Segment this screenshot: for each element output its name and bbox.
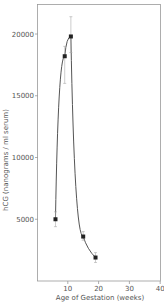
x-tick-label: 40 — [156, 285, 164, 293]
series-line — [55, 36, 95, 257]
x-tick-label: 20 — [94, 285, 103, 293]
data-point-marker — [53, 217, 57, 221]
y-tick-label: 10000 — [12, 154, 34, 162]
x-axis-ticks: 10203040 — [63, 281, 164, 293]
y-axis-title: hCG (nanograms / ml serum) — [2, 109, 10, 211]
data-point-marker — [94, 256, 98, 260]
data-point-marker — [81, 235, 85, 239]
data-point-marker — [63, 54, 67, 58]
plot-frame — [38, 5, 161, 282]
y-axis-ticks: 5000100001500020000 — [12, 31, 38, 224]
x-axis-title: Age of Gestation (weeks) — [56, 294, 145, 302]
y-tick-label: 20000 — [12, 31, 34, 39]
data-point-marker — [69, 34, 73, 38]
x-tick-label: 30 — [125, 285, 134, 293]
hcg-line-chart: 5000100001500020000 10203040 Age of Gest… — [0, 0, 164, 307]
data-series — [53, 17, 97, 263]
x-tick-label: 10 — [63, 285, 72, 293]
y-tick-label: 15000 — [12, 92, 34, 100]
y-tick-label: 5000 — [16, 216, 34, 224]
